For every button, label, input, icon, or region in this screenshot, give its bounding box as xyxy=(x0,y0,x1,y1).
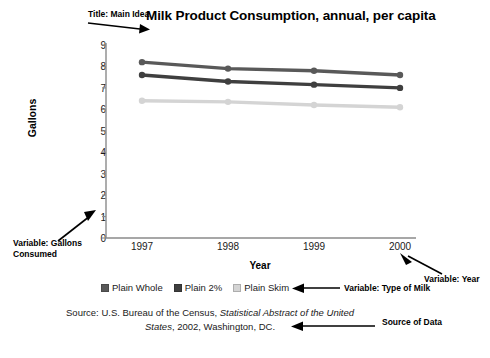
series-variable-callout-label: Variable: Type of Milk xyxy=(344,283,430,294)
x-tick-label: 1999 xyxy=(303,241,325,252)
source-callout-label: Source of Data xyxy=(382,317,442,328)
legend-item[interactable]: Plain Skim xyxy=(233,282,289,293)
legend-swatch-icon xyxy=(233,284,241,292)
x-tick-label: 2000 xyxy=(389,241,411,252)
x-tick-label: 1998 xyxy=(217,241,239,252)
x-variable-callout-label: Variable: Year xyxy=(424,274,480,285)
source-prefix: Source: U.S. Bureau of the Census, xyxy=(66,307,220,318)
y-variable-callout-label: Variable: Gallons Consumed xyxy=(13,238,82,260)
legend-item[interactable]: Plain 2% xyxy=(174,282,223,293)
legend-swatch-icon xyxy=(174,284,182,292)
source-suffix: , 2002, Washington, DC. xyxy=(172,321,275,332)
chart-svg xyxy=(0,0,490,358)
legend-item[interactable]: Plain Whole xyxy=(101,282,163,293)
legend-label: Plain Whole xyxy=(112,282,163,293)
legend-swatch-icon xyxy=(101,284,109,292)
source-callout-arrow xyxy=(291,321,377,333)
legend-label: Plain Skim xyxy=(244,282,289,293)
chart-plot-area: Gallons 0123456789 1997199819992000 Year xyxy=(0,0,490,358)
x-tick-label: 1997 xyxy=(131,241,153,252)
chart-legend: Plain WholePlain 2%Plain Skim xyxy=(101,282,289,293)
series-variable-callout-arrow xyxy=(292,283,342,295)
x-axis-title: Year xyxy=(110,260,410,271)
legend-label: Plain 2% xyxy=(185,282,223,293)
